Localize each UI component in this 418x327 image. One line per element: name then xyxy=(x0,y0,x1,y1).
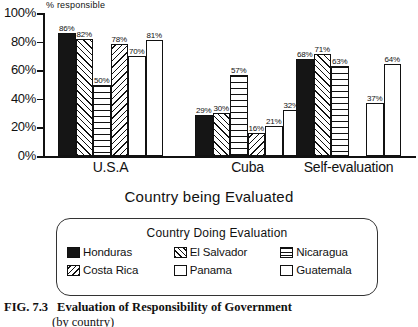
bar-value-label: 63% xyxy=(332,57,347,66)
bar: 29% xyxy=(195,115,213,156)
plot-area: 86%82%50%78%70%81%29%30%57%16%21%32%68%7… xyxy=(44,13,416,156)
y-tick-mark xyxy=(37,127,44,129)
figure-caption-line2: (by country) xyxy=(52,315,114,327)
bar-value-label: 16% xyxy=(249,124,264,133)
legend-swatch xyxy=(280,265,293,276)
figure-caption-text: Evaluation of Responsibility of Governme… xyxy=(57,300,292,314)
y-tick-mark xyxy=(37,99,44,101)
bar: 68% xyxy=(296,59,314,156)
legend-swatch xyxy=(280,247,293,258)
bar-value-label: 86% xyxy=(59,24,74,33)
x-axis-line xyxy=(43,156,416,158)
legend-item: Honduras xyxy=(67,246,174,258)
bar-value-label: 82% xyxy=(77,30,92,39)
bar: 81% xyxy=(146,40,164,156)
legend-item: Guatemala xyxy=(280,264,367,276)
y-tick-label: 20% xyxy=(11,119,36,134)
bar-value-label: 57% xyxy=(231,66,246,75)
legend-label: Honduras xyxy=(83,246,132,258)
bar: 78% xyxy=(111,44,129,156)
y-tick-label: 40% xyxy=(11,91,36,106)
bar: 82% xyxy=(76,39,94,156)
bar-value-label: 78% xyxy=(112,35,127,44)
y-tick-mark xyxy=(37,156,44,158)
bar-value-label: 50% xyxy=(94,76,109,85)
y-tick-mark xyxy=(37,13,44,15)
legend-item: Costa Rica xyxy=(67,264,174,276)
bar-value-label: 29% xyxy=(196,106,211,115)
y-tick-label: 80% xyxy=(11,34,36,49)
bar: 64% xyxy=(384,64,402,156)
bar-value-label: 71% xyxy=(315,45,330,54)
chart-figure: % responsible 0%20%40%60%80%100% 86%82%5… xyxy=(0,0,418,215)
bar-value-label: 30% xyxy=(214,104,229,113)
bar: 57% xyxy=(230,75,248,157)
y-axis-label: % responsible xyxy=(46,0,105,10)
legend-label: Costa Rica xyxy=(83,264,138,276)
legend-label: Panama xyxy=(190,264,232,276)
legend-label: Guatemala xyxy=(296,264,351,276)
legend-title: Country Doing Evaluation xyxy=(57,226,377,240)
bar-value-label: 21% xyxy=(266,117,281,126)
bar: 71% xyxy=(314,54,332,156)
bar: 21% xyxy=(265,126,283,156)
x-axis-group-label: Self-evaluation xyxy=(266,159,418,175)
legend-swatch xyxy=(67,247,80,258)
bar: 86% xyxy=(58,33,76,156)
legend-row: HondurasEl SalvadorNicaragua xyxy=(57,246,377,258)
bar: 63% xyxy=(331,66,349,156)
figure-caption: FIG. 7.3Evaluation of Responsibility of … xyxy=(4,300,418,315)
legend-swatch xyxy=(174,265,187,276)
bar-value-label: 37% xyxy=(367,94,382,103)
bar: 50% xyxy=(93,85,111,157)
legend-item: El Salvador xyxy=(174,246,281,258)
x-axis-title: Country being Evaluated xyxy=(0,188,418,205)
figure-number: FIG. 7.3 xyxy=(4,300,48,314)
legend-item: Nicaragua xyxy=(280,246,367,258)
bar: 70% xyxy=(128,56,146,156)
legend-label: Nicaragua xyxy=(296,246,348,258)
y-tick-label: 100% xyxy=(4,5,36,20)
bar: 37% xyxy=(366,103,384,156)
legend-entries: HondurasEl SalvadorNicaraguaCosta RicaPa… xyxy=(57,246,377,276)
bar: 16% xyxy=(248,133,266,156)
bar-value-label: 68% xyxy=(297,50,312,59)
legend-label: El Salvador xyxy=(190,246,248,258)
legend-swatch xyxy=(174,247,187,258)
bar: 30% xyxy=(213,113,231,156)
y-tick-mark xyxy=(37,70,44,72)
legend: Country Doing Evaluation HondurasEl Salv… xyxy=(56,218,378,296)
y-tick-mark xyxy=(37,42,44,44)
legend-item: Panama xyxy=(174,264,281,276)
bar-value-label: 64% xyxy=(385,55,400,64)
legend-swatch xyxy=(67,265,80,276)
legend-row: Costa RicaPanamaGuatemala xyxy=(57,264,377,276)
bar-value-label: 81% xyxy=(147,31,162,40)
bar-value-label: 70% xyxy=(129,47,144,56)
y-tick-label: 60% xyxy=(11,62,36,77)
